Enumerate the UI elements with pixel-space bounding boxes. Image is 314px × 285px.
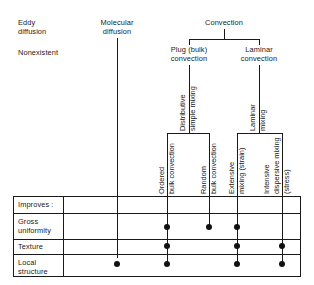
laminar-convection-drop (259, 39, 260, 45)
matrix-row-label-texture: Texture (18, 242, 43, 251)
eddy-diffusion-status-label: Nonexistent (18, 48, 58, 57)
mark-local-structure-molecular-diffusion (114, 261, 120, 267)
mark-texture-intensive-dispersive-mixing (279, 243, 285, 249)
molecular-diffusion-label-line2: diffusion (103, 27, 131, 36)
plug-mechanism-label-line1: Distributive (178, 94, 187, 131)
plug-convection-drop (189, 39, 190, 45)
mark-gross-uniformity-ordered-bulk-convection (164, 224, 170, 230)
plug-convection-label-line1: Plug (bulk) (171, 45, 207, 54)
intensive-dispersive-mixing-label-line2: dispersive mixing (272, 137, 281, 194)
eddy-diffusion-label-line2: diffusion (18, 27, 46, 36)
matrix-label-column-divider (63, 196, 64, 277)
matrix-row-label-gross-uniformity-line2: uniformity (18, 226, 51, 235)
laminar-mechanism-label-line1: Laminar (248, 104, 257, 131)
matrix-row-label-gross-uniformity-line1: Gross (18, 217, 38, 226)
mark-gross-uniformity-random-bulk-convection (206, 224, 212, 230)
extensive-mixing-strain-label-line2: mixing (strain) (237, 148, 246, 194)
mark-texture-ordered-bulk-convection (164, 243, 170, 249)
intensive-dispersive-mixing-label-line1: Intensive (262, 164, 271, 194)
mark-local-structure-ordered-bulk-convection (164, 261, 170, 267)
random-bulk-convection-label-line2: bulk convection (209, 143, 218, 194)
laminar-convection-label-line1: Laminar (245, 45, 272, 54)
mark-local-structure-extensive-mixing-strain (234, 261, 240, 267)
mark-local-structure-intensive-dispersive-mixing (279, 261, 285, 267)
plug-mechanism-label-line2: simple mixing (188, 86, 197, 131)
laminar-mechanism-label-line2: mixing (258, 110, 267, 131)
column-line-random-bulk-convection (209, 196, 210, 227)
mark-texture-extensive-mixing-strain (234, 243, 240, 249)
mark-gross-uniformity-extensive-mixing-strain (234, 224, 240, 230)
matrix-header-label: Improves : (18, 200, 54, 209)
matrix-table-border (13, 196, 301, 277)
laminar-convection-label-line2: convection (241, 54, 277, 63)
eddy-diffusion-label-line1: Eddy (18, 18, 35, 27)
ordered-bulk-convection-label-line2: bulk convection (167, 143, 176, 194)
matrix-row-divider-1 (13, 213, 301, 214)
plug-convection-label-line2: convection (171, 54, 207, 63)
convection-branch-bar (189, 39, 260, 40)
mixing-mechanisms-diagram: Eddy diffusion Nonexistent Molecular dif… (0, 0, 314, 285)
extensive-mixing-strain-label-line1: Extensive (227, 162, 236, 194)
molecular-diffusion-label-line1: Molecular (101, 18, 134, 27)
matrix-row-divider-2 (13, 239, 301, 240)
random-bulk-convection-label-line1: Random (199, 166, 208, 194)
laminar-subbranch-bar (237, 133, 283, 134)
plug-subbranch-bar (167, 133, 210, 134)
matrix-row-label-local-structure-line1: Local (18, 258, 36, 267)
matrix-row-label-local-structure-line2: structure (18, 267, 48, 276)
intensive-dispersive-mixing-label-line3: (stress) (282, 169, 291, 194)
ordered-bulk-convection-label-line1: Ordered (157, 167, 166, 194)
column-line-intensive-dispersive-mixing (282, 196, 283, 263)
matrix-row-divider-3 (13, 254, 301, 255)
convection-label: Convection (205, 18, 243, 27)
